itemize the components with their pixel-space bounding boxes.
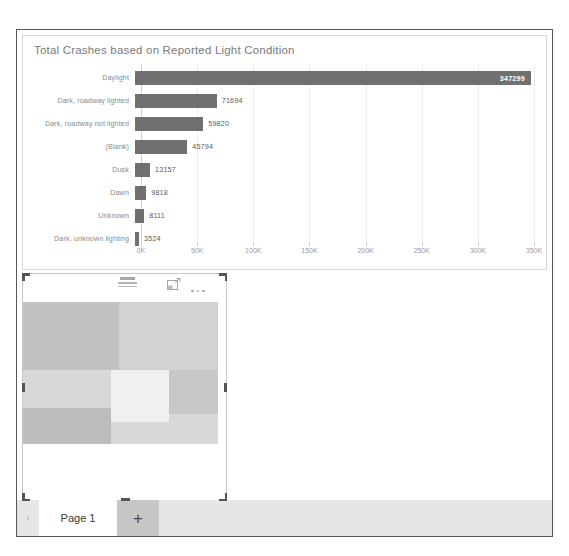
x-tick-mark [141, 242, 142, 246]
bar-category-label: Dusk [23, 165, 135, 174]
bar-track: 8111 [135, 204, 534, 227]
bar-value-label: 45794 [192, 142, 213, 151]
report-canvas: Total Crashes based on Reported Light Co… [16, 29, 553, 537]
bar-category-label: Dark, roadway lighted [23, 96, 135, 105]
resize-handle-bottom-left[interactable] [22, 493, 30, 501]
chart-bar-row[interactable]: Dark, roadway not lighted59820 [23, 112, 534, 135]
placeholder-block [111, 422, 218, 444]
bar-value-label: 13157 [155, 165, 176, 174]
more-options-icon[interactable] [191, 278, 209, 290]
resize-handle-bottom-center[interactable] [121, 498, 130, 501]
x-tick-mark [253, 242, 254, 246]
bar-category-label: Unknown [23, 211, 135, 220]
gridline [534, 64, 535, 247]
placeholder-block [111, 370, 169, 422]
bar[interactable] [135, 117, 203, 131]
bar[interactable] [135, 209, 144, 223]
x-tick-mark [366, 242, 367, 246]
placeholder-blocks [23, 294, 226, 500]
bar-track: 13157 [135, 158, 534, 181]
page-tab-page-1[interactable]: Page 1 [39, 500, 117, 536]
focus-mode-glyph [167, 278, 181, 291]
x-tick-label: 300K [470, 247, 486, 254]
x-tick-label: 150K [301, 247, 317, 254]
placeholder-block [23, 302, 119, 370]
bar[interactable] [135, 186, 146, 200]
placeholder-block [23, 370, 111, 408]
resize-handle-middle-right[interactable] [224, 383, 227, 392]
bar-track: 9818 [135, 181, 534, 204]
x-tick-label: 50K [191, 247, 203, 254]
x-tick-mark [422, 242, 423, 246]
bar-chart-visual[interactable]: Total Crashes based on Reported Light Co… [22, 35, 547, 270]
resize-handle-middle-left[interactable] [22, 383, 25, 392]
focus-mode-icon[interactable] [167, 277, 181, 290]
placeholder-block [169, 370, 218, 414]
resize-handle-bottom-right[interactable] [219, 493, 227, 501]
add-page-button[interactable]: + [117, 500, 159, 536]
chart-bar-row[interactable]: Dawn9818 [23, 181, 534, 204]
x-tick-mark [478, 242, 479, 246]
chart-bar-row[interactable]: Dusk13157 [23, 158, 534, 181]
bar-category-label: Dark, unknown lighting [23, 234, 135, 243]
bar-track: 347299 [135, 66, 534, 89]
filter-icon[interactable] [116, 277, 138, 291]
bar-track: 45794 [135, 135, 534, 158]
placeholder-block [169, 414, 218, 422]
bar-value-label: 8111 [149, 211, 165, 220]
chart-plot-area: Daylight347299Dark, roadway lighted71694… [23, 64, 546, 269]
bar-value-label: 59820 [208, 119, 229, 128]
resize-handle-top-right[interactable] [219, 273, 227, 281]
bar-track: 59820 [135, 112, 534, 135]
x-tick-label: 350K [526, 247, 542, 254]
visual-header-toolbar [23, 274, 226, 294]
x-tick-label: 0K [137, 247, 146, 254]
chart-title: Total Crashes based on Reported Light Co… [34, 44, 295, 56]
bar[interactable] [135, 163, 150, 177]
bar-value-label: 71694 [222, 96, 243, 105]
x-tick-mark [309, 242, 310, 246]
bar[interactable] [135, 94, 217, 108]
bar-value-label: 9818 [151, 188, 168, 197]
page-tab-bar: › Page 1 + [17, 500, 552, 536]
bar[interactable] [135, 232, 139, 246]
x-tick-mark [197, 242, 198, 246]
chart-bar-row[interactable]: (Blank)45794 [23, 135, 534, 158]
bar-category-label: Dawn [23, 188, 135, 197]
placeholder-block [23, 408, 111, 444]
bar[interactable] [135, 71, 531, 85]
bar-category-label: Dark, roadway not lighted [23, 119, 135, 128]
x-tick-label: 250K [414, 247, 430, 254]
bar-track: 71694 [135, 89, 534, 112]
placeholder-block [119, 302, 218, 370]
bar-value-label: 347299 [500, 73, 525, 82]
resize-handle-top-left[interactable] [22, 273, 30, 281]
placeholder-visual[interactable] [22, 273, 227, 501]
x-tick-label: 100K [245, 247, 261, 254]
x-tick-mark [534, 242, 535, 246]
bar-category-label: Daylight [23, 73, 135, 82]
page-nav-prev-button[interactable]: › [17, 500, 39, 536]
bar-category-label: (Blank) [23, 142, 135, 151]
chart-bar-row[interactable]: Unknown8111 [23, 204, 534, 227]
x-tick-label: 200K [357, 247, 373, 254]
chart-bar-row[interactable]: Daylight347299 [23, 66, 534, 89]
chart-bar-row[interactable]: Dark, roadway lighted71694 [23, 89, 534, 112]
bar-value-label: 3524 [144, 234, 161, 243]
bar[interactable] [135, 140, 187, 154]
chart-x-axis: 0K50K100K150K200K250K300K350K [141, 247, 534, 265]
chart-bar-rows: Daylight347299Dark, roadway lighted71694… [23, 66, 534, 250]
